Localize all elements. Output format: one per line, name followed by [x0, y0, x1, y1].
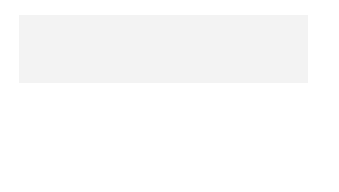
us-states-land: [19, 15, 308, 83]
texas-region-map: [0, 0, 339, 192]
